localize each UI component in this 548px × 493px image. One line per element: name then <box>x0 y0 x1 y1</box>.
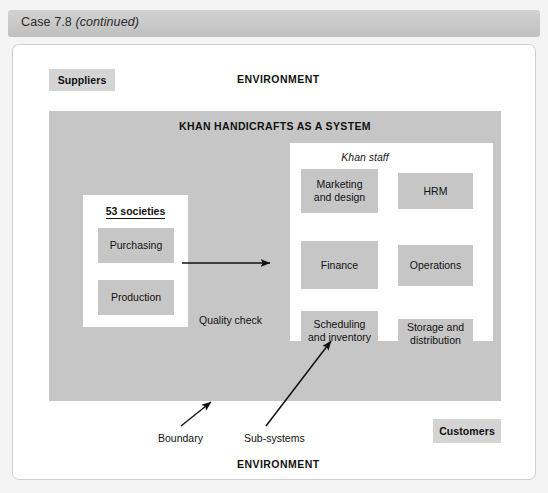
quality-check-label: Quality check <box>199 314 262 326</box>
operations-label: Operations <box>410 259 461 272</box>
hrm-box: HRM <box>398 173 473 209</box>
hrm-label: HRM <box>424 185 448 198</box>
purchasing-label: Purchasing <box>110 239 163 252</box>
sub-systems-label: Sub-systems <box>244 432 305 444</box>
customers-box: Customers <box>433 419 501 443</box>
figure-card: Suppliers ENVIRONMENT KHAN HANDICRAFTS A… <box>12 44 536 480</box>
khan-staff-caption: Khan staff <box>290 151 440 163</box>
case-header-title: Case 7.8 (continued) <box>21 15 139 29</box>
scheduling-and-inventory-box: Scheduling and inventory <box>301 311 378 351</box>
case-header-bar: Case 7.8 (continued) <box>8 10 540 37</box>
system-title: KHAN HANDICRAFTS AS A SYSTEM <box>49 120 501 132</box>
production-label: Production <box>111 291 161 304</box>
storage-and-distribution-label: Storage and distribution <box>407 321 464 347</box>
finance-label: Finance <box>321 259 358 272</box>
storage-and-distribution-box: Storage and distribution <box>398 319 473 349</box>
societies-title-text: 53 societies <box>106 205 166 219</box>
marketing-and-design-box: Marketing and design <box>301 169 378 213</box>
customers-label: Customers <box>439 425 495 437</box>
khan-staff-panel: Khan staff Marketing and design HRM Fina… <box>290 143 493 341</box>
societies-title: 53 societies <box>83 205 188 217</box>
environment-label-bottom: ENVIRONMENT <box>237 458 320 470</box>
suppliers-label: Suppliers <box>58 74 107 86</box>
system-boundary-box: KHAN HANDICRAFTS AS A SYSTEM 53 societie… <box>49 111 501 401</box>
operations-box: Operations <box>398 245 473 286</box>
scheduling-and-inventory-label: Scheduling and inventory <box>308 318 371 344</box>
suppliers-box: Suppliers <box>49 69 115 91</box>
finance-box: Finance <box>301 241 378 289</box>
case-header-prefix: Case 7.8 <box>21 15 75 29</box>
marketing-and-design-label: Marketing and design <box>314 178 365 204</box>
purchasing-box: Purchasing <box>98 228 174 263</box>
boundary-label: Boundary <box>158 432 203 444</box>
production-box: Production <box>98 280 174 315</box>
page-background: Case 7.8 (continued) Suppliers ENVIRONME… <box>0 0 548 493</box>
societies-panel: 53 societies Purchasing Production <box>83 195 188 327</box>
case-header-continued: (continued) <box>75 15 139 29</box>
environment-label-top: ENVIRONMENT <box>237 73 320 85</box>
boundary-arrow <box>181 402 211 426</box>
